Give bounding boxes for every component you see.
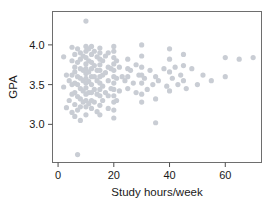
y-tick-label: 3.5 [29, 79, 44, 91]
data-point [167, 88, 172, 93]
data-point [145, 87, 150, 92]
data-point [128, 68, 133, 73]
data-point [251, 55, 256, 60]
data-point [170, 76, 175, 81]
y-axis-title: GPA [7, 75, 19, 99]
data-point [75, 152, 80, 157]
data-point [89, 106, 94, 111]
data-point [111, 44, 116, 49]
data-point [69, 45, 74, 50]
data-point [97, 93, 102, 98]
data-point [72, 102, 77, 107]
data-point [114, 98, 119, 103]
x-tick-label: 0 [55, 169, 61, 181]
data-point [147, 68, 152, 73]
data-point [125, 57, 130, 62]
data-point [92, 100, 97, 105]
plot-svg: 0204060 3.03.54.0 Study hours/week GPA [0, 0, 274, 209]
data-point [142, 76, 147, 81]
data-point [106, 78, 111, 83]
data-point [111, 80, 116, 85]
data-point [72, 69, 77, 74]
data-point [64, 72, 69, 77]
data-point [111, 49, 116, 54]
data-point [139, 80, 144, 85]
data-point [100, 84, 105, 89]
data-point [153, 96, 158, 101]
data-point [97, 112, 102, 117]
data-point [97, 50, 102, 55]
data-point [92, 63, 97, 68]
data-point [164, 84, 169, 89]
data-point [173, 65, 178, 70]
data-point [67, 98, 72, 103]
data-point [131, 80, 136, 85]
data-point [153, 120, 158, 125]
data-point [189, 66, 194, 71]
data-point [111, 115, 116, 120]
scatter-plot-figure: 0204060 3.03.54.0 Study hours/week GPA [0, 0, 274, 209]
data-point [117, 65, 122, 70]
data-point [106, 50, 111, 55]
data-point [89, 82, 94, 87]
data-point [78, 118, 83, 123]
data-point [184, 86, 189, 91]
data-point [69, 58, 74, 63]
data-point [97, 45, 102, 50]
data-point [125, 74, 130, 79]
data-point [106, 93, 111, 98]
data-point [125, 86, 130, 91]
data-point [106, 106, 111, 111]
data-point [83, 85, 88, 90]
y-tick-label: 3.0 [29, 118, 44, 130]
data-point [72, 52, 77, 57]
data-point [139, 65, 144, 70]
data-point [139, 100, 144, 105]
data-point [100, 58, 105, 63]
data-point [167, 46, 172, 51]
x-tick-label: 20 [108, 169, 120, 181]
data-point [78, 104, 83, 109]
data-point [139, 92, 144, 97]
data-point [111, 93, 116, 98]
data-point [134, 62, 139, 67]
data-point [181, 78, 186, 83]
data-point [111, 107, 116, 112]
y-tick-label: 4.0 [29, 39, 44, 51]
data-point [139, 53, 144, 58]
data-point [181, 63, 186, 68]
data-point [111, 68, 116, 73]
data-point [223, 55, 228, 60]
data-point [237, 57, 242, 62]
data-point [175, 82, 180, 87]
data-point [111, 87, 116, 92]
data-point [100, 98, 105, 103]
x-tick-label: 40 [163, 169, 175, 181]
data-point [72, 65, 77, 70]
data-point [83, 112, 88, 117]
data-point [72, 114, 77, 119]
data-point [117, 88, 122, 93]
data-point [64, 105, 69, 110]
data-point [181, 52, 186, 57]
data-point [92, 49, 97, 54]
data-point [97, 68, 102, 73]
data-point [178, 72, 183, 77]
data-point [97, 103, 102, 108]
data-point [92, 87, 97, 92]
data-point [223, 74, 228, 79]
data-point [161, 66, 166, 71]
data-point [83, 18, 88, 23]
data-point [200, 72, 205, 77]
x-tick-label: 60 [219, 169, 231, 181]
data-point [61, 84, 66, 89]
data-point [114, 58, 119, 63]
x-axis-title: Study hours/week [111, 186, 203, 198]
data-point [134, 90, 139, 95]
data-point [156, 78, 161, 83]
data-point [103, 70, 108, 75]
data-point [150, 82, 155, 87]
data-point [195, 82, 200, 87]
data-point [139, 42, 144, 47]
data-point [114, 76, 119, 81]
